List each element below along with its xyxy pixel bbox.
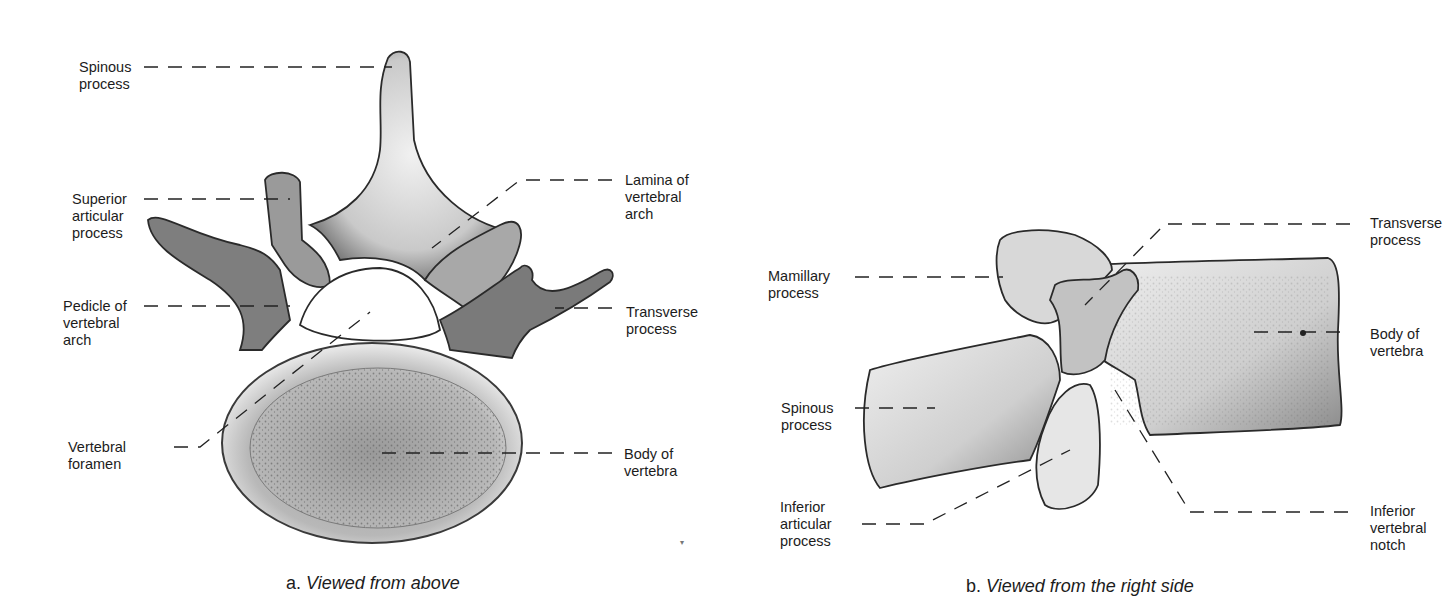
label-mamillary-process: Mamillary process — [768, 268, 830, 302]
vertebra-illustrations: ▾ — [0, 0, 1456, 603]
caption-b: b. Viewed from the right side — [966, 576, 1194, 597]
label-lamina-of-vertebral-arch: Lamina of vertebral arch — [625, 172, 689, 223]
label-transverse-process-b: Transverse process — [1370, 215, 1442, 249]
vertebra-top-view: ▾ — [148, 52, 684, 547]
label-pedicle-of-vertebral-arch: Pedicle of vertebral arch — [63, 298, 127, 349]
label-inferior-articular-process: Inferior articular process — [780, 499, 832, 550]
label-transverse-process-a: Transverse process — [626, 304, 698, 338]
label-spinous-process-b: Spinous process — [781, 400, 833, 434]
caption-a-prefix: a. — [286, 573, 301, 593]
caption-b-text: Viewed from the right side — [986, 576, 1194, 596]
label-body-of-vertebra-b: Body of vertebra — [1370, 326, 1423, 360]
caption-a: a. Viewed from above — [286, 573, 460, 594]
vertebra-side-view — [864, 230, 1342, 509]
label-spinous-process-a: Spinous process — [79, 59, 131, 93]
label-inferior-vertebral-notch: Inferior vertebral notch — [1370, 503, 1426, 554]
caption-b-prefix: b. — [966, 576, 981, 596]
caption-a-text: Viewed from above — [306, 573, 460, 593]
label-body-of-vertebra-a: Body of vertebra — [624, 446, 677, 480]
label-superior-articular-process: Superior articular process — [72, 191, 127, 242]
label-vertebral-foramen: Vertebral foramen — [68, 439, 126, 473]
svg-text:▾: ▾ — [680, 538, 684, 547]
